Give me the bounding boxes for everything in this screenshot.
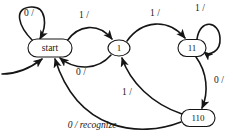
diagram-canvas: start 1 11 110 0 / 1 / 0 / 1 / 1 / <box>0 0 233 140</box>
edge-label-11-to-110: 0 / <box>214 75 224 85</box>
edge-label-1-to-11: 1 / <box>150 8 160 18</box>
state-machine-diagram: start 1 11 110 0 / 1 / 0 / 1 / 1 / <box>0 0 233 140</box>
edge-label-11-self: 1 / <box>195 3 205 13</box>
edge-110-to-start <box>55 59 181 129</box>
node-1-label: 1 <box>117 43 122 53</box>
initial-state-arrow <box>2 59 42 74</box>
node-start[interactable]: start <box>28 39 72 57</box>
edge-11-to-110 <box>196 57 206 108</box>
nodes-layer: start 1 11 110 <box>28 39 215 127</box>
edge-label-110-to-start: 0 / recognize <box>68 120 117 130</box>
node-110-label: 110 <box>191 113 205 123</box>
edge-1-to-11 <box>127 24 185 41</box>
edge-label-110-to-1: 1 / <box>122 87 132 97</box>
node-start-label: start <box>42 43 59 53</box>
edge-110-to-1 <box>122 58 182 114</box>
edge-1-to-start <box>60 55 111 67</box>
node-1[interactable]: 1 <box>108 40 130 56</box>
node-11-label: 11 <box>188 43 197 53</box>
node-11[interactable]: 11 <box>178 40 206 57</box>
edge-start-to-1 <box>67 28 112 41</box>
node-110[interactable]: 110 <box>181 110 215 127</box>
edge-label-start-to-1: 1 / <box>79 10 89 20</box>
edge-label-start-self: 0 / <box>24 8 34 18</box>
edge-label-1-to-start: 0 / <box>76 67 86 77</box>
